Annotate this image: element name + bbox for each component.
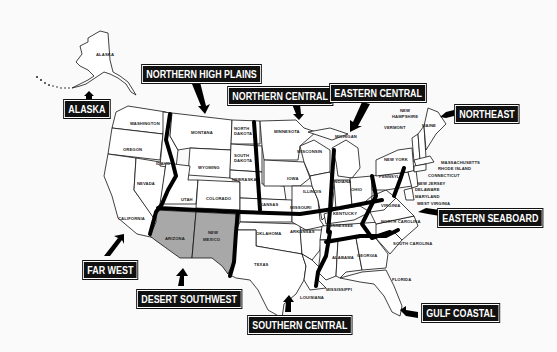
region-label-northeast: NORTHEAST — [455, 105, 519, 123]
arizona-shape — [150, 210, 196, 258]
state-label-arkansas: ARKANSAS — [290, 229, 315, 234]
state-label-mississippi: MISSISSIPPI — [326, 287, 352, 292]
region-label-desert-southwest: DESERT SOUTHWEST — [137, 290, 241, 308]
state-label-vermont: VERMONT — [384, 125, 406, 130]
region-label-eastern-seaboard: EASTERN SEABOARD — [438, 209, 543, 227]
state-label-louisiana: LOUISIANA — [300, 295, 324, 300]
region-label-northern-central: NORTHERN CENTRAL — [228, 87, 332, 105]
state-label-arizona: ARIZONA — [165, 236, 185, 241]
wyoming-shape — [188, 148, 231, 178]
state-label-connecticut: CONNECTICUT — [428, 173, 460, 178]
state-label-south-dakota-2: DAKOTA — [234, 158, 252, 163]
state-label-alaska: ALASKA — [96, 52, 114, 57]
state-label-north-dakota-2: DAKOTA — [234, 131, 252, 136]
state-label-south-carolina: SOUTH CAROLINA — [393, 241, 432, 246]
alaska-shape: ALASKA — [36, 31, 136, 95]
state-label-rhode-island: RHODE ISLAND — [438, 166, 471, 171]
arrow-gulf-coastal — [400, 306, 418, 318]
michigan-lower-shape — [332, 140, 360, 178]
arrow-desert-southwest — [176, 268, 188, 286]
arrow-eastern-central — [350, 102, 370, 132]
iowa-shape — [264, 160, 310, 186]
state-label-indiana: INDIANA — [333, 179, 351, 184]
state-label-new-mexico-1: NEW — [208, 230, 218, 235]
maine-shape — [424, 108, 446, 150]
us-region-map: ALASKA — [0, 0, 557, 352]
state-label-virginia: VIRGINIA — [381, 203, 400, 208]
state-label-idaho: IDAHO — [156, 161, 171, 166]
state-label-maryland: MARYLAND — [415, 194, 440, 199]
state-label-utah: UTAH — [181, 197, 193, 202]
state-label-texas: TEXAS — [254, 262, 269, 267]
arrow-northern-central — [292, 104, 304, 120]
region-label-alaska: ALASKA — [64, 100, 110, 118]
arrow-eastern-seaboard — [418, 208, 440, 216]
state-label-kansas: KANSAS — [260, 202, 278, 207]
state-label-montana: MONTANA — [191, 130, 213, 135]
state-label-west-virginia: WEST VIRGINIA — [417, 201, 450, 206]
state-label-oregon: OREGON — [123, 147, 142, 152]
state-label-michigan: MICHIGAN — [335, 134, 357, 139]
map-svg: ALASKA — [0, 0, 557, 352]
region-label-southern-central: SOUTHERN CENTRAL — [248, 316, 352, 334]
state-label-iowa: IOWA — [287, 176, 299, 181]
state-label-new-york: NEW YORK — [384, 157, 408, 162]
state-label-kentucky: KENTUCKY — [333, 211, 357, 216]
region-label-far-west: FAR WEST — [83, 261, 138, 279]
state-label-delaware: DELAWARE — [415, 187, 440, 192]
state-label-new-hampshire-2: HAMPSHIRE — [392, 114, 418, 119]
arrow-northeast — [440, 110, 454, 118]
state-label-nebraska: NEBRASKA — [232, 177, 257, 182]
state-label-alabama: ALABAMA — [332, 255, 354, 260]
state-label-illinois: ILLINOIS — [303, 189, 322, 194]
state-label-pennsylvania: PENNSYL. — [379, 174, 401, 179]
state-label-ohio: OHIO — [351, 187, 363, 192]
state-label-minnesota: MINNESOTA — [274, 129, 300, 134]
colorado-shape — [196, 180, 240, 210]
state-label-missouri: MISSOURI — [290, 205, 312, 210]
region-label-eastern-central: EASTERN CENTRAL — [330, 84, 426, 102]
arrow-northern-high-plains — [192, 82, 210, 114]
state-label-california: CALIFORNIA — [118, 216, 145, 221]
state-label-georgia: GEORGIA — [357, 253, 377, 258]
state-label-massachusetts: MASSACHUSETTS — [441, 160, 480, 165]
state-label-new-jersey: NEW JERSEY — [417, 181, 446, 186]
region-label-northern-high-plains: NORTHERN HIGH PLAINS — [142, 65, 261, 83]
state-label-north-carolina: NORTH CAROLINA — [381, 219, 421, 224]
state-label-nevada: NEVADA — [137, 181, 155, 186]
state-label-new-mexico-2: MEXICO — [203, 237, 221, 242]
state-label-florida: FLORIDA — [392, 277, 411, 282]
state-label-maine: MAINE — [422, 123, 436, 128]
state-label-wyoming: WYOMING — [198, 165, 220, 170]
state-label-washington: WASHINGTON — [130, 121, 160, 126]
arrow-far-west — [104, 234, 124, 256]
state-label-oklahoma: OKLAHOMA — [256, 231, 281, 236]
state-label-tennessee: TENNESSEE — [327, 223, 353, 228]
delaware-maryland-shape — [404, 188, 414, 200]
state-label-colorado: COLORADO — [206, 196, 232, 201]
state-label-new-hampshire-1: NEW — [400, 108, 410, 113]
new-mexico-shape — [192, 212, 236, 274]
state-label-wisconsin: WISCONSIN — [297, 149, 322, 154]
region-label-gulf-coastal: GULF COASTAL — [422, 304, 500, 322]
